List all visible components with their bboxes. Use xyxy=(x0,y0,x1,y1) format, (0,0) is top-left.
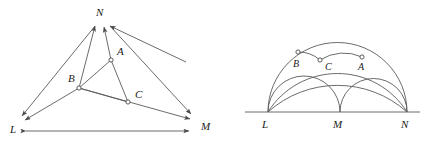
label-L-left: L xyxy=(9,123,16,135)
semicircle-LN xyxy=(268,43,407,113)
point-B-marker xyxy=(77,86,81,90)
point-A-marker-right xyxy=(360,55,364,59)
label-L-right: L xyxy=(261,118,268,130)
right-panel: L M N B C A xyxy=(245,43,420,131)
segment-A-B xyxy=(79,60,111,88)
figure-container: N L M A B C xyxy=(0,0,439,147)
label-A-right: A xyxy=(357,61,365,72)
point-C-marker-right xyxy=(318,58,322,62)
arrow-A-to-N xyxy=(104,27,111,60)
semicircle-MN xyxy=(340,78,407,112)
inner-triangle-ABC xyxy=(79,60,128,102)
point-A-marker xyxy=(109,58,113,62)
geometry-figure: N L M A B C xyxy=(0,0,439,147)
label-N-left: N xyxy=(95,6,104,18)
point-B-marker-right xyxy=(296,50,300,54)
arrow-A-to-M xyxy=(110,26,191,114)
arrow-A-to-L xyxy=(22,26,95,116)
point-C-marker xyxy=(126,100,130,104)
label-A-left: A xyxy=(116,45,124,57)
segment-B-C xyxy=(79,88,128,102)
label-B-right: B xyxy=(293,58,299,69)
left-panel: N L M A B C xyxy=(9,6,211,135)
label-C-left: C xyxy=(135,88,143,100)
arc-C-to-A xyxy=(320,53,362,60)
label-C-right: C xyxy=(325,61,332,72)
arrows-to-N xyxy=(79,26,186,88)
arrows-to-M xyxy=(79,26,191,119)
arc-B-to-C xyxy=(298,52,320,60)
label-M-right: M xyxy=(332,118,343,130)
arrows-to-L xyxy=(22,26,95,120)
label-N-right: N xyxy=(400,118,409,130)
semicircle-LM xyxy=(268,76,340,112)
label-B-left: B xyxy=(68,72,75,84)
segment-A-C xyxy=(111,60,128,102)
arrow-B-to-L xyxy=(25,88,79,120)
label-M-left: M xyxy=(200,120,211,132)
